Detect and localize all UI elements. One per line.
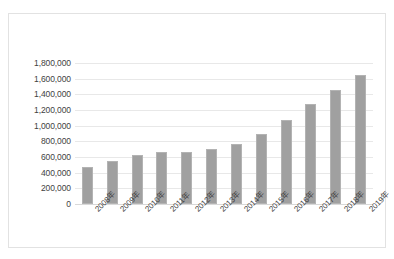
y-axis-tick-label: 1,200,000 [34, 105, 71, 115]
y-axis-tick-label: 600,000 [41, 152, 71, 162]
bar-series [75, 63, 373, 204]
y-axis-tick-label: 1,400,000 [34, 89, 71, 99]
bar [355, 75, 366, 204]
y-axis-tick-label: 1,000,000 [34, 121, 71, 131]
y-axis-tick-label: 200,000 [41, 183, 71, 193]
chart-frame: 1,800,0001,600,0001,400,0001,200,0001,00… [8, 13, 386, 248]
y-axis-tick-label: 0 [66, 199, 71, 209]
y-axis-tick-label: 800,000 [41, 136, 71, 146]
bar [82, 167, 93, 204]
x-axis: 2008年2009年2010年2011年2012年2013年2014年2015年… [75, 206, 373, 252]
y-axis-tick-label: 400,000 [41, 168, 71, 178]
chart-screenshot: 1,800,0001,600,0001,400,0001,200,0001,00… [0, 0, 394, 259]
bar [330, 90, 341, 204]
y-axis-tick-label: 1,800,000 [34, 58, 71, 68]
y-axis-tick-label: 1,600,000 [34, 74, 71, 84]
y-axis: 1,800,0001,600,0001,400,0001,200,0001,00… [19, 63, 71, 204]
